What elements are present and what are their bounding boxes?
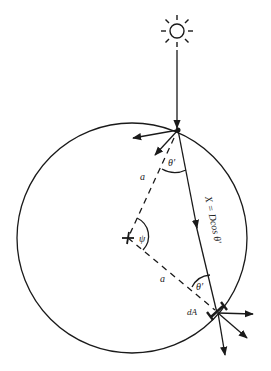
radius-upper bbox=[128, 138, 174, 238]
label-psi: ψ bbox=[139, 233, 146, 244]
theta-arc-top bbox=[162, 169, 186, 172]
label-dA: dA bbox=[187, 307, 198, 317]
label-a-upper: a bbox=[140, 171, 145, 182]
dA-surface-element bbox=[207, 302, 227, 320]
label-a-lower: a bbox=[160, 273, 165, 284]
outgoing-ray-down bbox=[218, 313, 225, 355]
chord-ray-arrow bbox=[178, 130, 197, 228]
label-chord: X = Dcos θ′ bbox=[203, 194, 224, 245]
sun-icon bbox=[161, 15, 193, 47]
outgoing-ray-diagonal bbox=[218, 313, 247, 338]
outgoing-ray-right bbox=[218, 313, 253, 314]
label-theta-bottom: θ′ bbox=[196, 281, 204, 292]
label-theta-top: θ′ bbox=[168, 157, 176, 168]
sphere-radiation-diagram: a a θ′ θ′ ψ dA X = Dcos θ′ bbox=[0, 0, 271, 371]
